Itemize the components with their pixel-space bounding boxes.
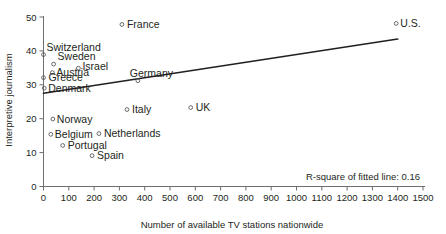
- data-point-marker: [125, 108, 129, 112]
- data-point-label: Norway: [57, 113, 93, 125]
- y-tick-label: 10: [26, 147, 37, 158]
- x-tick-label: 200: [86, 192, 102, 203]
- y-tick-label: 0: [31, 181, 36, 192]
- data-point-label: Israel: [82, 60, 108, 72]
- y-tick-label: 20: [26, 113, 37, 124]
- data-point-marker: [97, 132, 101, 136]
- x-tick-label: 500: [162, 192, 178, 203]
- data-point-label: UK: [196, 101, 211, 113]
- x-tick-label: 400: [137, 192, 153, 203]
- x-tick-label: 800: [238, 192, 254, 203]
- data-point-marker: [189, 106, 193, 110]
- data-point-label: U.S.: [400, 17, 420, 29]
- data-point-marker: [61, 144, 65, 148]
- x-tick-label: 1300: [362, 192, 383, 203]
- x-tick-label: 1100: [312, 192, 332, 203]
- data-point-label: Germany: [130, 67, 174, 79]
- x-tick-label: 900: [263, 192, 279, 203]
- x-tick-label: 600: [187, 192, 203, 203]
- x-tick-label: 1000: [286, 192, 307, 203]
- data-point-labels: FranceU.S.SwitzerlandSwedenAustriaIsrael…: [47, 17, 421, 161]
- x-tick-label: 700: [213, 192, 229, 203]
- x-tick-label: 1400: [387, 192, 408, 203]
- data-point-marker: [394, 22, 398, 26]
- data-point-label: Netherlands: [104, 127, 161, 139]
- x-tick-label: 100: [61, 192, 77, 203]
- data-point-label: Denmark: [48, 82, 91, 94]
- x-tick-label: 0: [41, 192, 46, 203]
- data-point-marker: [120, 23, 124, 27]
- x-axis-title: Number of available TV stations nationwi…: [141, 219, 324, 230]
- r-square-annotation: R-square of fitted line: 0.16: [306, 171, 420, 182]
- y-axis-title: Interpretive journalism: [3, 53, 14, 147]
- x-tick-label: 300: [111, 192, 127, 203]
- data-point-marker: [42, 86, 46, 90]
- x-tick-label: 1500: [412, 192, 433, 203]
- data-point-marker: [51, 117, 55, 121]
- data-point-label: Spain: [97, 149, 124, 161]
- y-tick-label: 50: [26, 12, 37, 23]
- data-point-marker: [49, 132, 53, 136]
- scatter-plot-figure: 0100200300400500600700800900100011001200…: [0, 0, 446, 234]
- x-tick-label: 1200: [337, 192, 358, 203]
- data-point-label: Italy: [132, 103, 152, 115]
- data-point-marker: [90, 154, 94, 158]
- y-tick-label: 30: [26, 79, 37, 90]
- plot-canvas: 0100200300400500600700800900100011001200…: [0, 0, 446, 234]
- data-point-marker: [52, 62, 56, 66]
- data-point-label: France: [127, 18, 160, 30]
- y-tick-label: 40: [26, 45, 37, 56]
